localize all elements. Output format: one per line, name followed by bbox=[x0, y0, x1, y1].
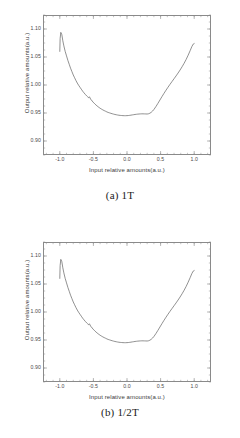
figure-caption-a: (a) 1T bbox=[0, 189, 240, 201]
x-tick-label: -0.5 bbox=[89, 384, 98, 389]
x-tick-labels-b: -1.0-0.50.00.51.0 bbox=[43, 384, 211, 394]
x-axis-title-b: Input relative amounts(a.u.) bbox=[43, 394, 211, 400]
x-axis-title-a: Input relative amounts(a.u.) bbox=[43, 167, 211, 173]
x-tick-label: 0.0 bbox=[123, 157, 131, 162]
x-tick-labels-a: -1.0-0.50.00.51.0 bbox=[43, 157, 211, 167]
x-tick-label: 0.5 bbox=[157, 384, 165, 389]
plot-area-a: 0.900.951.001.051.10 -1.0-0.50.00.51.0 O… bbox=[0, 0, 240, 178]
figure-b-half-t: 0.900.951.001.051.10 -1.0-0.50.00.51.0 O… bbox=[0, 220, 240, 438]
x-tick-label: 1.0 bbox=[190, 157, 198, 162]
x-tick-label: -1.0 bbox=[55, 157, 64, 162]
x-tick-label: 1.0 bbox=[190, 384, 198, 389]
figure-a-1t: 0.900.951.001.051.10 -1.0-0.50.00.51.0 O… bbox=[0, 0, 240, 220]
x-tick-label: -0.5 bbox=[89, 157, 98, 162]
figure-caption-b: (b) 1/2T bbox=[0, 406, 240, 418]
x-tick-label: -1.0 bbox=[55, 384, 64, 389]
y-axis-title-a: Output relative amounts(a.u.) bbox=[24, 3, 30, 143]
x-tick-label: 0.5 bbox=[157, 157, 165, 162]
y-axis-title-b: Output relative amounts(a.u.) bbox=[24, 230, 30, 370]
plot-area-b: 0.900.951.001.051.10 -1.0-0.50.00.51.0 O… bbox=[0, 220, 240, 398]
x-tick-label: 0.0 bbox=[123, 384, 131, 389]
